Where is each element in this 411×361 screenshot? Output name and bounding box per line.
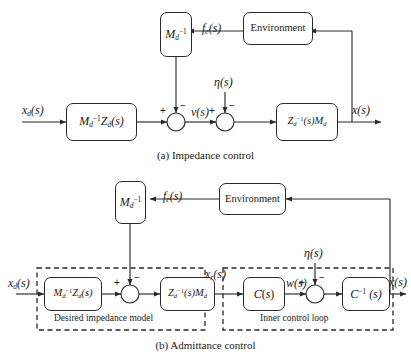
block-md-inv-zd-b-label: Md−1Zd(s) bbox=[53, 288, 92, 300]
label-xr-b: xr(s) bbox=[205, 268, 226, 282]
label-fe-a: fe(s) bbox=[202, 22, 221, 36]
sign-sum2-top-a: − bbox=[229, 101, 235, 111]
sign-sum2-left-b: + bbox=[299, 278, 305, 288]
label-fe-b: fe(s) bbox=[163, 190, 182, 204]
label-inner-control-loop: Inner control loop bbox=[260, 314, 329, 324]
block-md-inv-zd-a-label: Md−1Zd(s) bbox=[79, 115, 124, 129]
block-diagram-figure: Md−1 Environment Md−1Zd(s) Zd−1(s)Md xd(… bbox=[0, 0, 411, 361]
block-md-inverse-b-label: Md−1 bbox=[120, 196, 142, 210]
label-desired-impedance-model: Desired impedance model bbox=[54, 314, 153, 324]
block-md-inverse-a[interactable]: Md−1 bbox=[160, 12, 192, 57]
block-zd-inv-md-a[interactable]: Zd−1(s)Md bbox=[276, 103, 338, 141]
block-zd-inv-md-a-label: Zd−1(s)Md bbox=[287, 116, 326, 128]
block-md-inverse-a-label: Md−1 bbox=[165, 28, 187, 42]
block-md-inverse-b[interactable]: Md−1 bbox=[115, 181, 146, 224]
sign-sum1-top-b: − bbox=[134, 273, 140, 283]
block-controller-b-label: C(s) bbox=[254, 288, 275, 300]
block-environment-a[interactable]: Environment bbox=[243, 12, 313, 45]
block-zd-inv-md-b-label: Zd−1(s)Md bbox=[168, 288, 207, 300]
block-md-inv-zd-b[interactable]: Md−1Zd(s) bbox=[44, 277, 102, 311]
block-md-inv-zd-a[interactable]: Md−1Zd(s) bbox=[66, 103, 137, 141]
caption-panel-b: (b) Admittance control bbox=[0, 340, 411, 351]
block-controller-inverse-b-label: C−1 (s) bbox=[350, 288, 382, 300]
sign-sum2-top-b: − bbox=[319, 273, 325, 283]
block-controller-inverse-b[interactable]: C−1 (s) bbox=[342, 277, 390, 311]
block-environment-b[interactable]: Environment bbox=[219, 183, 286, 215]
label-x-a: x(s) bbox=[352, 104, 370, 116]
block-environment-a-label: Environment bbox=[251, 23, 306, 34]
label-eta-a: η(s) bbox=[214, 76, 233, 88]
caption-panel-a: (a) Impedance control bbox=[0, 150, 411, 161]
sign-sum1-top-a: − bbox=[180, 101, 186, 111]
label-eta-b: η(s) bbox=[304, 247, 323, 259]
label-xd-a: xd(s) bbox=[22, 104, 44, 118]
sign-sum1-left-b: + bbox=[114, 278, 120, 288]
sign-sum1-left-a: + bbox=[160, 106, 166, 116]
block-zd-inv-md-b[interactable]: Zd−1(s)Md bbox=[160, 277, 215, 311]
label-xd-b: xd(s) bbox=[8, 277, 30, 291]
label-x-b: x(s) bbox=[389, 276, 407, 288]
sign-sum2-left-a: + bbox=[209, 106, 215, 116]
block-controller-b[interactable]: C(s) bbox=[243, 277, 285, 311]
block-environment-b-label: Environment bbox=[225, 194, 280, 205]
label-v-a: v(s) bbox=[191, 106, 209, 118]
